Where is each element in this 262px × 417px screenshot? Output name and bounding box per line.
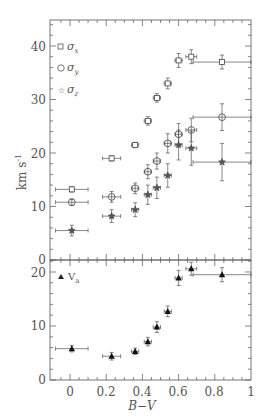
triangle-marker-icon (58, 274, 64, 279)
chart-figure: 10 20 30 40 0 20 10 0 0 0.2 0.4 0.6 0.8 … (0, 0, 262, 417)
upper-panel-frame (50, 20, 251, 260)
legend-sigma-y: σy (67, 61, 80, 76)
legend-sigma-z: σz (67, 83, 79, 98)
upper-ytick-40: 40 (31, 40, 46, 54)
xtick-1: 1 (247, 385, 255, 399)
legend-lower: Va (58, 271, 79, 285)
circle-marker-icon (58, 65, 64, 71)
xtick-0: 0 (66, 385, 74, 399)
square-marker-icon (58, 44, 63, 49)
legend-upper: σx σy ☆ σz (58, 40, 80, 98)
legend-sigma-x: σx (67, 40, 79, 55)
xtick-0.2: 0.2 (96, 385, 115, 399)
upper-ytick-10: 10 (31, 200, 46, 214)
axis-ticks (50, 20, 251, 380)
lower-panel-frame (50, 260, 251, 380)
xtick-0.6: 0.6 (168, 385, 187, 399)
legend-va: Va (67, 271, 79, 285)
xtick-0.4: 0.4 (132, 385, 151, 399)
x-axis-label: B−V (127, 399, 157, 413)
upper-ytick-30: 30 (31, 93, 46, 107)
lower-ytick-20: 20 (31, 266, 46, 280)
lower-ytick-0: 0 (38, 373, 46, 387)
xtick-0.8: 0.8 (204, 385, 223, 399)
y-axis-label: km s-1 (14, 154, 29, 190)
lower-ytick-10: 10 (31, 319, 46, 333)
upper-ytick-0: 0 (38, 253, 46, 267)
star-marker-icon: ☆ (58, 86, 65, 95)
data-points (56, 50, 251, 360)
svg-text:km s-1: km s-1 (14, 154, 29, 190)
upper-ytick-20: 20 (31, 147, 46, 161)
